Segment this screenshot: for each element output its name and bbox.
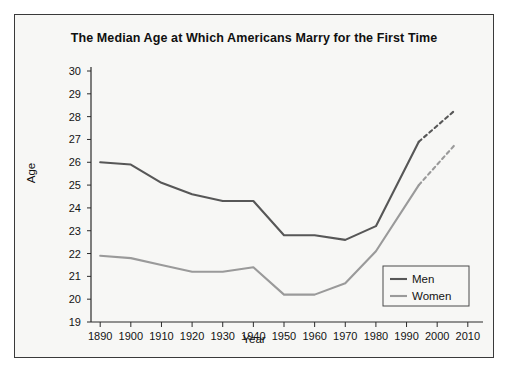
svg-text:Men: Men bbox=[412, 273, 434, 285]
svg-text:27: 27 bbox=[69, 133, 81, 145]
svg-text:30: 30 bbox=[69, 65, 81, 77]
svg-text:21: 21 bbox=[69, 270, 81, 282]
svg-text:1970: 1970 bbox=[333, 330, 357, 342]
svg-text:1990: 1990 bbox=[394, 330, 418, 342]
chart-legend[interactable]: MenWomen bbox=[383, 266, 469, 306]
svg-text:1920: 1920 bbox=[180, 330, 204, 342]
svg-text:28: 28 bbox=[69, 111, 81, 123]
svg-text:1960: 1960 bbox=[302, 330, 326, 342]
plot-area: 192021222324252627282930 189019001910192… bbox=[15, 15, 494, 358]
svg-text:1900: 1900 bbox=[119, 330, 143, 342]
svg-text:26: 26 bbox=[69, 156, 81, 168]
svg-text:29: 29 bbox=[69, 88, 81, 100]
svg-text:1930: 1930 bbox=[210, 330, 234, 342]
svg-text:23: 23 bbox=[69, 225, 81, 237]
svg-text:Women: Women bbox=[412, 290, 451, 302]
svg-text:25: 25 bbox=[69, 179, 81, 191]
svg-text:1980: 1980 bbox=[364, 330, 388, 342]
svg-text:1910: 1910 bbox=[149, 330, 173, 342]
svg-text:2000: 2000 bbox=[425, 330, 449, 342]
svg-text:20: 20 bbox=[69, 293, 81, 305]
svg-text:1940: 1940 bbox=[241, 330, 265, 342]
chart-figure: The Median Age at Which Americans Marry … bbox=[14, 14, 494, 358]
svg-text:22: 22 bbox=[69, 248, 81, 260]
x-axis-tick-labels: 1890190019101920193019401950196019701980… bbox=[88, 322, 480, 342]
svg-text:1950: 1950 bbox=[272, 330, 296, 342]
svg-text:2010: 2010 bbox=[456, 330, 480, 342]
svg-text:19: 19 bbox=[69, 316, 81, 328]
y-axis-tick-labels: 192021222324252627282930 bbox=[69, 65, 91, 328]
svg-text:1890: 1890 bbox=[88, 330, 112, 342]
svg-text:24: 24 bbox=[69, 202, 81, 214]
